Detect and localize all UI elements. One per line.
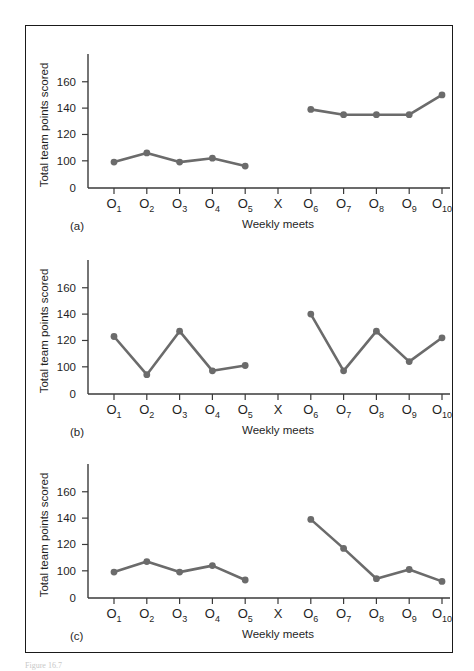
- y-tick-label: 120: [57, 128, 76, 140]
- data-point: [209, 155, 216, 162]
- data-point: [111, 569, 118, 576]
- y-tick-label: 140: [57, 308, 76, 320]
- x-tick-label: O1: [106, 196, 121, 214]
- data-point: [340, 545, 347, 552]
- x-tick-label: X: [274, 606, 283, 621]
- x-tick-label: O4: [205, 402, 220, 420]
- x-tick-label: O9: [402, 402, 417, 420]
- x-tick-label: O8: [369, 402, 384, 420]
- data-point: [209, 367, 216, 374]
- data-point: [242, 362, 249, 369]
- data-point: [143, 150, 150, 157]
- data-point: [373, 111, 380, 118]
- x-tick-label: O6: [303, 402, 318, 420]
- x-tick-label: O3: [172, 606, 187, 624]
- x-tick-label: O10: [432, 606, 452, 624]
- x-tick-label: O9: [402, 196, 417, 214]
- x-tick-label: O1: [106, 402, 121, 420]
- chart-panel-c: 0100120140160O1O2O3O4O5XO6O7O8O9O10Total…: [26, 440, 454, 646]
- data-point: [143, 371, 150, 378]
- data-point: [406, 358, 413, 365]
- data-line-post-intervention: [311, 314, 442, 371]
- y-tick-label: 120: [57, 538, 76, 550]
- x-tick-label: O7: [336, 402, 351, 420]
- x-tick-label: O7: [336, 196, 351, 214]
- data-point: [439, 578, 446, 585]
- y-tick-label: 140: [57, 102, 76, 114]
- panel-label: (c): [70, 630, 84, 642]
- x-tick-label: O8: [369, 606, 384, 624]
- y-tick-label: 100: [57, 361, 76, 373]
- y-axis-title: Total team points scored: [38, 269, 50, 394]
- data-point: [111, 159, 118, 166]
- data-point: [406, 111, 413, 118]
- x-tick-label: O2: [139, 196, 154, 214]
- data-line-post-intervention: [311, 519, 442, 581]
- chart-panel-b: 0100120140160O1O2O3O4O5XO6O7O8O9O10Total…: [26, 236, 454, 442]
- data-point: [373, 328, 380, 335]
- x-tick-label: X: [274, 196, 283, 211]
- x-tick-label: O2: [139, 402, 154, 420]
- y-axis-title: Total team points scored: [38, 473, 50, 598]
- x-tick-label: O8: [369, 196, 384, 214]
- panel-label: (a): [70, 220, 84, 232]
- y-tick-label: 120: [57, 334, 76, 346]
- data-point: [176, 569, 183, 576]
- x-tick-label: O5: [238, 402, 253, 420]
- line-chart-c: 0100120140160O1O2O3O4O5XO6O7O8O9O10Total…: [26, 440, 454, 646]
- data-point: [340, 111, 347, 118]
- data-point: [439, 334, 446, 341]
- figure-caption: Figure 16.7: [25, 661, 425, 670]
- y-tick-label: 0: [70, 388, 76, 400]
- x-tick-label: O5: [238, 606, 253, 624]
- data-point: [111, 333, 118, 340]
- x-tick-label: O7: [336, 606, 351, 624]
- y-axis-title: Total team points scored: [38, 63, 50, 188]
- x-axis-title: Weekly meets: [242, 218, 314, 230]
- chart-panel-a: 0100120140160O1O2O3O4O5XO6O7O8O9O10Total…: [26, 30, 454, 236]
- data-point: [242, 577, 249, 584]
- data-point: [307, 516, 314, 523]
- data-line-baseline: [114, 331, 245, 375]
- x-tick-label: O3: [172, 402, 187, 420]
- data-point: [209, 562, 216, 569]
- y-tick-label: 160: [57, 486, 76, 498]
- x-tick-label: O10: [432, 196, 452, 214]
- x-tick-label: O9: [402, 606, 417, 624]
- x-tick-label: O4: [205, 606, 220, 624]
- x-axis-title: Weekly meets: [242, 628, 314, 640]
- x-tick-label: O3: [172, 196, 187, 214]
- x-tick-label: O6: [303, 196, 318, 214]
- data-point: [176, 328, 183, 335]
- y-tick-label: 100: [57, 565, 76, 577]
- x-tick-label: O5: [238, 196, 253, 214]
- data-point: [143, 558, 150, 565]
- x-axis-title: Weekly meets: [242, 424, 314, 436]
- data-point: [307, 106, 314, 113]
- y-tick-label: 0: [70, 592, 76, 604]
- line-chart-a: 0100120140160O1O2O3O4O5XO6O7O8O9O10Total…: [26, 30, 454, 236]
- data-point: [406, 566, 413, 573]
- data-point: [340, 367, 347, 374]
- y-tick-label: 160: [57, 282, 76, 294]
- y-tick-label: 160: [57, 76, 76, 88]
- y-tick-label: 100: [57, 155, 76, 167]
- x-tick-label: O1: [106, 606, 121, 624]
- y-tick-label: 140: [57, 512, 76, 524]
- data-point: [176, 159, 183, 166]
- x-tick-label: X: [274, 402, 283, 417]
- x-tick-label: O10: [432, 402, 452, 420]
- data-point: [242, 163, 249, 170]
- figure-frame: 0100120140160O1O2O3O4O5XO6O7O8O9O10Total…: [25, 25, 453, 653]
- y-tick-label: 0: [70, 182, 76, 194]
- panel-label: (b): [70, 426, 84, 438]
- data-point: [307, 311, 314, 318]
- data-point: [439, 92, 446, 99]
- line-chart-b: 0100120140160O1O2O3O4O5XO6O7O8O9O10Total…: [26, 236, 454, 442]
- x-tick-label: O4: [205, 196, 220, 214]
- x-tick-label: O6: [303, 606, 318, 624]
- x-tick-label: O2: [139, 606, 154, 624]
- data-point: [373, 575, 380, 582]
